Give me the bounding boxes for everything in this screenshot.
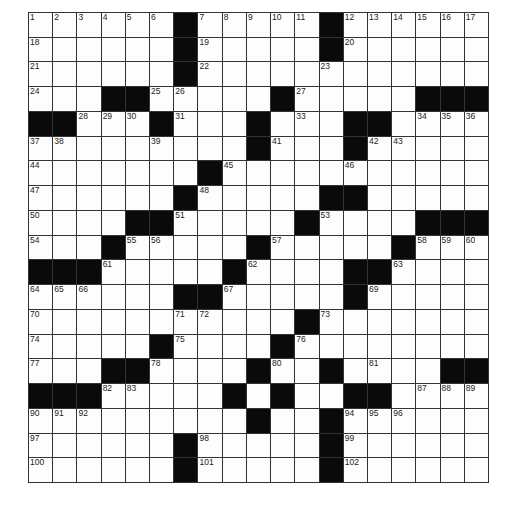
grid-cell[interactable] <box>392 310 415 334</box>
grid-cell[interactable] <box>416 458 439 482</box>
grid-cell[interactable]: 60 <box>465 236 488 260</box>
grid-cell[interactable]: 20 <box>344 38 367 62</box>
grid-cell[interactable] <box>416 335 439 359</box>
grid-cell[interactable] <box>392 161 415 185</box>
grid-cell[interactable] <box>77 359 100 383</box>
grid-cell[interactable]: 95 <box>368 409 391 433</box>
grid-cell[interactable]: 12 <box>344 13 367 37</box>
grid-cell[interactable] <box>441 285 464 309</box>
grid-cell[interactable] <box>441 434 464 458</box>
grid-cell[interactable]: 42 <box>368 137 391 161</box>
grid-cell[interactable] <box>441 260 464 284</box>
grid-cell[interactable]: 33 <box>295 112 318 136</box>
grid-cell[interactable] <box>247 310 270 334</box>
grid-cell[interactable]: 3 <box>77 13 100 37</box>
grid-cell[interactable] <box>441 186 464 210</box>
grid-cell[interactable] <box>247 87 270 111</box>
grid-cell[interactable] <box>441 409 464 433</box>
grid-cell[interactable] <box>295 186 318 210</box>
grid-cell[interactable] <box>223 38 246 62</box>
grid-cell[interactable] <box>320 112 343 136</box>
grid-cell[interactable] <box>465 62 488 86</box>
grid-cell[interactable] <box>102 38 125 62</box>
grid-cell[interactable]: 2 <box>53 13 76 37</box>
grid-cell[interactable] <box>271 112 294 136</box>
grid-cell[interactable]: 63 <box>392 260 415 284</box>
grid-cell[interactable] <box>271 434 294 458</box>
grid-cell[interactable]: 65 <box>53 285 76 309</box>
grid-cell[interactable] <box>271 211 294 235</box>
grid-cell[interactable] <box>320 87 343 111</box>
grid-cell[interactable] <box>126 38 149 62</box>
grid-cell[interactable] <box>77 87 100 111</box>
grid-cell[interactable] <box>320 384 343 408</box>
grid-cell[interactable]: 53 <box>320 211 343 235</box>
grid-cell[interactable]: 75 <box>174 335 197 359</box>
grid-cell[interactable]: 69 <box>368 285 391 309</box>
grid-cell[interactable] <box>247 285 270 309</box>
grid-cell[interactable] <box>53 161 76 185</box>
grid-cell[interactable]: 101 <box>198 458 221 482</box>
grid-cell[interactable] <box>392 211 415 235</box>
grid-cell[interactable]: 30 <box>126 112 149 136</box>
grid-cell[interactable] <box>77 186 100 210</box>
grid-cell[interactable] <box>77 137 100 161</box>
grid-cell[interactable] <box>368 310 391 334</box>
grid-cell[interactable] <box>441 458 464 482</box>
grid-cell[interactable] <box>271 186 294 210</box>
grid-cell[interactable]: 13 <box>368 13 391 37</box>
grid-cell[interactable] <box>271 285 294 309</box>
grid-cell[interactable] <box>223 112 246 136</box>
grid-cell[interactable] <box>441 335 464 359</box>
grid-cell[interactable]: 66 <box>77 285 100 309</box>
grid-cell[interactable] <box>465 434 488 458</box>
grid-cell[interactable] <box>441 137 464 161</box>
grid-cell[interactable]: 51 <box>174 211 197 235</box>
grid-cell[interactable]: 26 <box>174 87 197 111</box>
grid-cell[interactable] <box>344 310 367 334</box>
grid-cell[interactable]: 67 <box>223 285 246 309</box>
grid-cell[interactable]: 43 <box>392 137 415 161</box>
grid-cell[interactable]: 11 <box>295 13 318 37</box>
grid-cell[interactable]: 64 <box>29 285 52 309</box>
grid-cell[interactable] <box>102 161 125 185</box>
grid-cell[interactable] <box>247 335 270 359</box>
grid-cell[interactable]: 14 <box>392 13 415 37</box>
grid-cell[interactable] <box>223 87 246 111</box>
grid-cell[interactable]: 56 <box>150 236 173 260</box>
grid-cell[interactable] <box>198 335 221 359</box>
grid-cell[interactable]: 29 <box>102 112 125 136</box>
grid-cell[interactable] <box>392 359 415 383</box>
grid-cell[interactable] <box>150 409 173 433</box>
grid-cell[interactable] <box>320 137 343 161</box>
grid-cell[interactable]: 99 <box>344 434 367 458</box>
grid-cell[interactable] <box>150 458 173 482</box>
grid-cell[interactable] <box>150 285 173 309</box>
grid-cell[interactable] <box>247 211 270 235</box>
grid-cell[interactable] <box>77 458 100 482</box>
grid-cell[interactable] <box>320 285 343 309</box>
grid-cell[interactable]: 45 <box>223 161 246 185</box>
grid-cell[interactable] <box>150 186 173 210</box>
grid-cell[interactable] <box>295 236 318 260</box>
grid-cell[interactable] <box>320 260 343 284</box>
grid-cell[interactable] <box>416 260 439 284</box>
grid-cell[interactable] <box>102 434 125 458</box>
grid-cell[interactable]: 83 <box>126 384 149 408</box>
grid-cell[interactable] <box>465 310 488 334</box>
grid-cell[interactable]: 44 <box>29 161 52 185</box>
grid-cell[interactable] <box>392 384 415 408</box>
grid-cell[interactable] <box>150 310 173 334</box>
grid-cell[interactable] <box>77 310 100 334</box>
grid-cell[interactable]: 47 <box>29 186 52 210</box>
grid-cell[interactable] <box>102 285 125 309</box>
grid-cell[interactable] <box>223 62 246 86</box>
grid-cell[interactable]: 6 <box>150 13 173 37</box>
grid-cell[interactable]: 7 <box>198 13 221 37</box>
grid-cell[interactable] <box>247 62 270 86</box>
grid-cell[interactable]: 61 <box>102 260 125 284</box>
grid-cell[interactable] <box>223 335 246 359</box>
grid-cell[interactable] <box>392 38 415 62</box>
grid-cell[interactable] <box>295 38 318 62</box>
grid-cell[interactable] <box>416 285 439 309</box>
